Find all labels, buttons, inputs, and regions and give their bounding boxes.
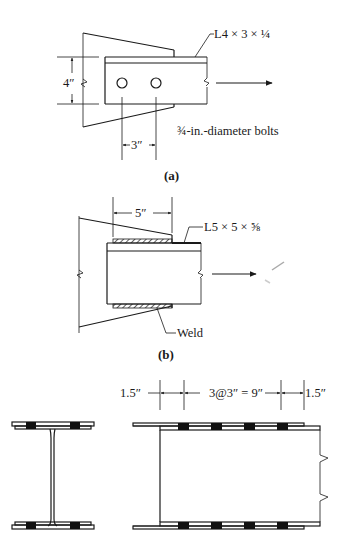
weld-label: Weld	[177, 326, 204, 340]
figure-a-bolted-angle: 4″ 3″ L4 × 3 × ¼ ¾-in.-diameter bolts (a…	[57, 27, 279, 183]
bolt-hole-icon	[117, 78, 127, 88]
spacing-label: 3@3″ = 9″	[209, 386, 263, 400]
break-symbol	[81, 79, 87, 87]
caption-b: (b)	[158, 347, 174, 362]
scan-artifact	[265, 280, 270, 283]
weld-bottom	[113, 304, 172, 308]
caption-a: (a)	[164, 168, 179, 183]
pitch-dimension-label: 3″	[131, 138, 142, 152]
figure-b-welded-angle: 5″ L5 × 5 × ⅝ Weld (b)	[77, 197, 284, 362]
weld-length-label: 5″	[135, 206, 146, 220]
bolt-label: ¾-in.-diameter bolts	[177, 124, 279, 138]
pitch-dimension: 3″	[122, 97, 156, 160]
i-beam-cross-section	[12, 422, 94, 529]
edge-distance-left-label: 1.5″	[120, 386, 141, 400]
gage-dimension-label: 4″	[63, 76, 74, 90]
engineering-figure: 4″ 3″ L4 × 3 × ¼ ¾-in.-diameter bolts (a…	[0, 0, 348, 556]
angle-member	[107, 243, 203, 304]
leader-line	[195, 34, 214, 57]
beam-elevation	[133, 423, 328, 529]
leader-line	[184, 227, 203, 243]
gusset-plate	[77, 216, 172, 333]
weld-top	[113, 239, 172, 243]
figure-c-wide-flange-splice: 1.5″ 3@3″ = 9″ 1.5″	[12, 380, 328, 529]
edge-distance-right-label: 1.5″	[305, 386, 326, 400]
scan-artifact	[272, 262, 284, 270]
bolt-hole-icon	[151, 78, 161, 88]
member-label: L5 × 5 × ⅝	[204, 220, 261, 234]
angle-member	[105, 57, 209, 104]
bolt-spacing-dimension: 1.5″ 3@3″ = 9″ 1.5″	[120, 380, 326, 410]
weld-length-dimension: 5″	[113, 197, 172, 237]
weld-leader-line	[157, 308, 176, 333]
gage-dimension: 4″	[57, 57, 99, 104]
member-label: L4 × 3 × ¼	[214, 27, 270, 41]
